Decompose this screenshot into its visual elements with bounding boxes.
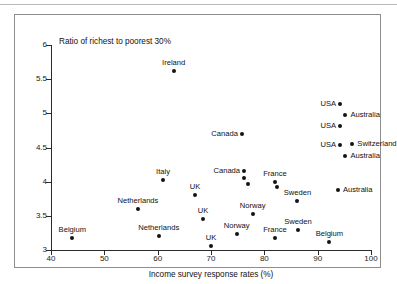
data-point[interactable] [209,244,213,248]
data-point[interactable] [273,236,277,240]
scatter-plot-area: 33.544.555.56 405060708090100 IrelandUSA… [51,45,371,253]
figure-frame: Ratio of richest to poorest 30% 33.544.5… [14,14,381,268]
x-tick-label: 60 [153,255,162,263]
data-point-label: Norway [224,222,250,230]
data-point-label: Norway [240,202,266,210]
data-point[interactable] [235,232,239,236]
data-point[interactable] [296,228,300,232]
data-point-label: Switzerland [357,140,396,148]
data-point-label: UK [206,234,217,242]
data-point-label: Ireland [162,59,185,67]
data-point-label: Netherlands [117,197,158,205]
data-point[interactable] [295,199,299,203]
data-point[interactable] [343,113,347,117]
y-tick-label: 3 [43,246,47,254]
data-point[interactable] [343,154,347,158]
data-point[interactable] [327,240,331,244]
data-point-label: UK [198,207,209,215]
data-point[interactable] [161,178,165,182]
data-point[interactable] [338,124,342,128]
data-point[interactable] [240,132,244,136]
y-tick-label: 5 [43,109,47,117]
data-point-label: Australia [350,152,380,160]
data-point-label: Australia [343,186,373,194]
data-point[interactable] [350,142,354,146]
data-point[interactable] [273,180,277,184]
data-point-label: USA [320,122,336,130]
data-point-label: Canada [213,167,240,175]
data-point[interactable] [201,217,205,221]
data-point[interactable] [242,176,246,180]
data-point-label: Australia [350,111,380,119]
x-axis-title: Income survey response rates (%) [51,270,371,279]
x-tick-label: 100 [364,255,377,263]
data-point-label: Sweden [284,218,311,226]
y-tick-label: 5.5 [36,75,47,83]
y-tick-label: 6 [43,41,47,49]
data-point[interactable] [338,102,342,106]
screenshot-page: Ratio of richest to poorest 30% 33.544.5… [0,0,397,284]
x-tick-label: 40 [47,255,56,263]
data-point[interactable] [336,188,340,192]
data-point-label: USA [320,100,336,108]
data-point[interactable] [172,69,176,73]
y-tick-label: 4 [43,178,47,186]
data-point[interactable] [193,193,197,197]
data-point[interactable] [242,169,246,173]
x-tick-label: 90 [313,255,322,263]
data-point-label: Canada [211,130,238,138]
x-tick-label: 50 [100,255,109,263]
y-tick-label: 4.5 [36,144,47,152]
y-tick-label: 3.5 [36,212,47,220]
data-point-label: UK [190,183,201,191]
x-tick-label: 80 [260,255,269,263]
data-point[interactable] [157,234,161,238]
data-point[interactable] [275,185,279,189]
x-tick-label: 70 [207,255,216,263]
data-point-label: Netherlands [138,224,179,232]
y-axis-line [51,45,52,250]
data-point[interactable] [251,212,255,216]
page-top-rule [0,4,397,5]
data-point[interactable] [136,207,140,211]
data-point-label: France [263,170,287,178]
data-point-label: Belgium [59,226,86,234]
data-point[interactable] [246,182,250,186]
data-point-label: USA [320,141,336,149]
data-point[interactable] [338,143,342,147]
data-point-label: Belgium [316,230,343,238]
data-point-label: Italy [156,168,170,176]
data-point-label: France [263,226,287,234]
data-point-label: Sweden [284,189,311,197]
data-point[interactable] [70,236,74,240]
